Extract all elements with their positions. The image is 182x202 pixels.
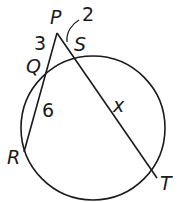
diagram-canvas: P Q S R T 3 6 2 x bbox=[0, 0, 182, 202]
measure-st: x bbox=[113, 96, 124, 115]
point-label-r: R bbox=[7, 148, 20, 167]
measure-pq: 3 bbox=[34, 34, 46, 53]
measure-ps: 2 bbox=[82, 5, 94, 24]
geometry-figure bbox=[0, 0, 182, 202]
secant-pst bbox=[57, 33, 157, 178]
point-label-t: T bbox=[160, 174, 172, 193]
measure-qr: 6 bbox=[42, 101, 54, 120]
point-label-p: P bbox=[50, 8, 61, 27]
circle bbox=[21, 56, 165, 200]
point-label-s: S bbox=[74, 35, 86, 54]
point-label-q: Q bbox=[26, 57, 41, 76]
